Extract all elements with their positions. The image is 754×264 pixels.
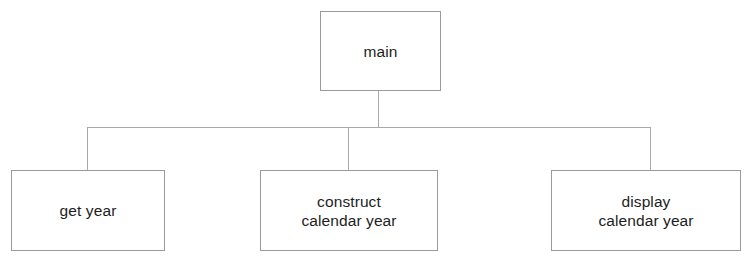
node-display-calendar-year: display calendar year bbox=[551, 170, 741, 251]
node-main: main bbox=[320, 11, 441, 91]
node-get-year-label: get year bbox=[60, 201, 117, 220]
node-construct-calendar-year: construct calendar year bbox=[260, 170, 438, 251]
node-get-year: get year bbox=[11, 170, 165, 251]
node-main-label: main bbox=[364, 42, 398, 61]
node-display-calendar-year-label: display calendar year bbox=[598, 192, 693, 230]
structure-chart: main get year construct calendar year di… bbox=[0, 0, 754, 264]
node-construct-calendar-year-label: construct calendar year bbox=[301, 192, 396, 230]
